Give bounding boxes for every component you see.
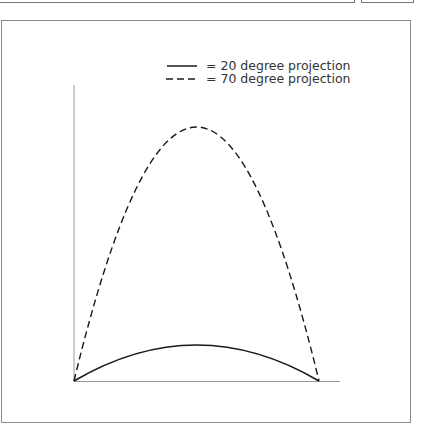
trajectory-20-degree [74, 345, 319, 381]
trajectory-70-degree [74, 127, 319, 381]
legend-label-70-degree: = 70 degree projection [206, 71, 351, 86]
